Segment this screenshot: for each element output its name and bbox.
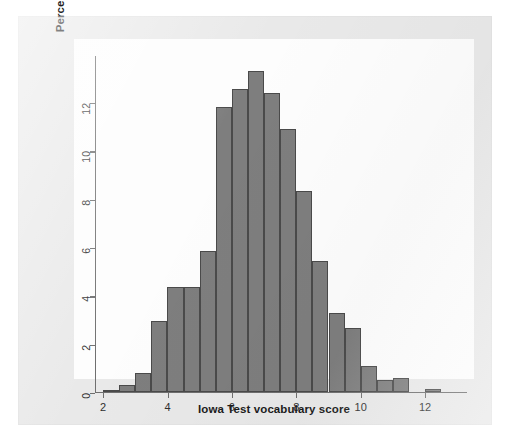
histogram-bar — [264, 93, 280, 393]
histogram-bar — [103, 390, 119, 392]
histogram-bar — [151, 321, 167, 392]
x-tick-8 — [296, 393, 297, 398]
x-axis-title: Iowa Test vocabulary score — [74, 403, 474, 415]
x-tick-12 — [425, 393, 426, 398]
histogram-bar — [329, 313, 345, 393]
scanned-page-background: 024681012 24681012 Iowa Test vocabulary … — [18, 16, 492, 425]
y-tick-label-12: 12 — [80, 103, 92, 115]
histogram-bar — [184, 287, 200, 392]
histogram-bar — [167, 287, 183, 392]
y-axis-title: Percent of seventh-grade students — [54, 0, 66, 76]
y-axis-line — [95, 56, 96, 393]
y-tick-label-2: 2 — [80, 345, 92, 351]
x-tick-6 — [232, 393, 233, 398]
histogram-bar — [361, 366, 377, 393]
y-tick-label-10: 10 — [80, 151, 92, 163]
histogram-bar — [393, 378, 409, 392]
chart-plot-area: 024681012 24681012 — [95, 56, 467, 393]
y-tick-label-4: 4 — [80, 296, 92, 302]
histogram-bar — [248, 71, 264, 392]
histogram-bar — [119, 385, 135, 392]
histogram-bar — [135, 373, 151, 392]
histogram-figure: 024681012 24681012 Iowa Test vocabulary … — [0, 0, 512, 440]
histogram-bar — [345, 328, 361, 392]
histogram-bar — [425, 389, 441, 393]
histogram-bar — [296, 191, 312, 393]
y-tick-label-6: 6 — [80, 248, 92, 254]
y-tick-label-8: 8 — [80, 200, 92, 206]
x-tick-10 — [361, 393, 362, 398]
histogram-bar — [312, 261, 328, 393]
histogram-bar — [232, 89, 248, 392]
histogram-bar — [200, 251, 216, 392]
histogram-bar — [280, 129, 296, 392]
histogram-bar — [377, 380, 393, 392]
histogram-bar — [216, 107, 232, 392]
x-tick-2 — [103, 393, 104, 398]
y-tick-label-0: 0 — [80, 393, 92, 399]
x-tick-4 — [168, 393, 169, 398]
